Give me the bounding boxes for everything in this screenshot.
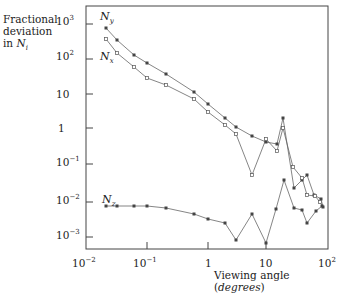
y-label-prefix: in [3, 37, 16, 49]
series-nx [106, 39, 323, 207]
series-nz [106, 180, 322, 243]
y-label-var: N [16, 37, 25, 49]
y-axis-label: Fractional deviation in Ni [3, 13, 58, 54]
x-tick-1e2: 102 [318, 256, 336, 269]
y-tick-1e3: 103 [56, 14, 74, 27]
y-axis-ticks [86, 24, 93, 237]
series-ny [106, 28, 323, 207]
x-tick-10: 10 [259, 256, 272, 269]
y-label-line3: in Ni [3, 37, 58, 54]
x-label-unit: degrees [218, 281, 261, 293]
y-tick-1: 1 [58, 121, 65, 134]
plot-frame [86, 6, 328, 249]
y-label-sub: i [26, 44, 28, 52]
y-tick-1e2: 102 [56, 49, 74, 62]
y-tick-1e-2: 10−2 [56, 193, 80, 206]
x-label-close: ) [261, 281, 265, 293]
markers-nz [105, 179, 324, 245]
x-tick-1e-2: 10−2 [72, 256, 96, 269]
y-label-line1: Fractional [3, 13, 58, 25]
markers-ny [105, 27, 325, 209]
x-axis-ticks [147, 242, 266, 249]
y-label-line2: deviation [3, 25, 58, 37]
series-label-ny: Ny [100, 10, 114, 25]
series-label-nz: Nz [102, 193, 115, 208]
y-tick-1e-3: 10−3 [56, 228, 80, 241]
y-tick-1e-1: 10−1 [56, 155, 80, 168]
x-tick-1e-1: 10−1 [133, 256, 157, 269]
series-label-nx: Nx [100, 50, 114, 65]
y-tick-10: 10 [56, 87, 69, 100]
markers-nx [105, 38, 322, 204]
x-axis-label: Viewing angle (degrees) [214, 269, 343, 293]
x-tick-1: 1 [205, 256, 212, 269]
